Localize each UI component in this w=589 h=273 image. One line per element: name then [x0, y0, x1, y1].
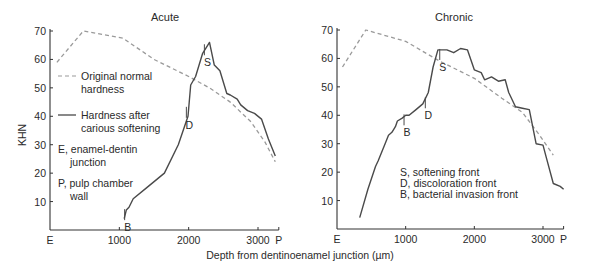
- x-tick-label: 2000: [177, 234, 201, 246]
- y-tick-label: 60: [321, 52, 333, 64]
- chronic-key: S, softening front D, discoloration fron…: [400, 166, 518, 200]
- front-marker-s: S: [439, 61, 446, 73]
- x-tick-label: 2000: [463, 233, 487, 245]
- chronic-axes: E100020003000P10203040506070: [321, 24, 567, 245]
- hardness-figure: Acute E100020003000P10203040506070 SDB O…: [0, 0, 589, 273]
- front-marker-s: S: [204, 56, 211, 68]
- y-tick-label: 10: [321, 195, 333, 207]
- y-tick-label: 10: [34, 196, 46, 208]
- y-tick-label: 70: [321, 24, 333, 36]
- x-tick-label: 3000: [246, 234, 270, 246]
- chronic-title: Chronic: [435, 11, 473, 23]
- acute-title: Acute: [151, 11, 179, 23]
- y-tick-label: 40: [321, 109, 333, 121]
- x-tick-label: E: [46, 234, 53, 246]
- x-tick-label: 1000: [108, 234, 132, 246]
- legend-original-line1: Original normal: [81, 70, 152, 82]
- key-p-line1: P, pulp chamber: [58, 177, 134, 189]
- x-tick-label: P: [275, 234, 282, 246]
- y-tick-label: 20: [34, 167, 46, 179]
- y-tick-label: 60: [34, 53, 46, 65]
- legend-original-line2: hardness: [81, 83, 124, 95]
- x-tick-label: P: [560, 233, 567, 245]
- front-marker-b: B: [124, 221, 131, 233]
- acute-axes: E100020003000P10203040506070: [34, 25, 282, 246]
- y-tick-label: 30: [321, 138, 333, 150]
- acute-panel: Acute E100020003000P10203040506070 SDB O…: [34, 11, 282, 246]
- acute-key: E, enamel-dentin junction P, pulp chambe…: [58, 143, 138, 202]
- legend-softened-line1: Hardness after: [81, 109, 150, 121]
- y-axis-label: KHN: [16, 124, 28, 146]
- y-tick-label: 20: [321, 166, 333, 178]
- chronic-panel: Chronic E100020003000P10203040506070 SDB…: [321, 11, 567, 245]
- x-tick-label: 3000: [531, 233, 555, 245]
- key-e-line1: E, enamel-dentin: [58, 143, 138, 155]
- key-b: B, bacterial invasion front: [400, 188, 518, 200]
- legend-softened-line2: carious softening: [81, 122, 161, 134]
- x-tick-label: 1000: [394, 233, 418, 245]
- chronic-annotations: SDB: [404, 49, 447, 138]
- y-tick-label: 50: [321, 81, 333, 93]
- y-tick-label: 70: [34, 25, 46, 37]
- chart-canvas: Acute E100020003000P10203040506070 SDB O…: [0, 0, 589, 273]
- x-tick-label: E: [333, 233, 340, 245]
- front-marker-d: D: [186, 119, 194, 131]
- original-hardness-line: [343, 30, 554, 155]
- acute-legend: Original normal hardness Hardness after …: [58, 70, 161, 134]
- x-axis-label: Depth from dentinoenamel junction (µm): [206, 249, 394, 261]
- front-marker-d: D: [425, 109, 433, 121]
- y-tick-label: 40: [34, 110, 46, 122]
- y-tick-label: 50: [34, 82, 46, 94]
- key-p-line2: wall: [69, 190, 88, 202]
- key-e-line2: junction: [69, 156, 106, 168]
- front-marker-b: B: [404, 126, 411, 138]
- y-tick-label: 30: [34, 139, 46, 151]
